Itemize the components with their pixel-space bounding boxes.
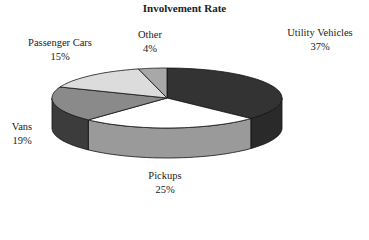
label-name: Pickups [125,169,205,183]
label-pickups: Pickups 25% [125,169,205,197]
label-percent: 19% [2,134,42,148]
label-other: Other 4% [130,28,170,56]
label-passenger-cars: Passenger Cars 15% [10,36,110,64]
label-percent: 37% [270,40,369,54]
label-name: Passenger Cars [10,36,110,50]
label-name: Other [130,28,170,42]
label-percent: 15% [10,50,110,64]
label-vans: Vans 19% [2,120,42,148]
label-name: Utility Vehicles [270,26,369,40]
label-name: Vans [2,120,42,134]
label-percent: 4% [130,42,170,56]
label-percent: 25% [125,183,205,197]
label-utility-vehicles: Utility Vehicles 37% [270,26,369,54]
